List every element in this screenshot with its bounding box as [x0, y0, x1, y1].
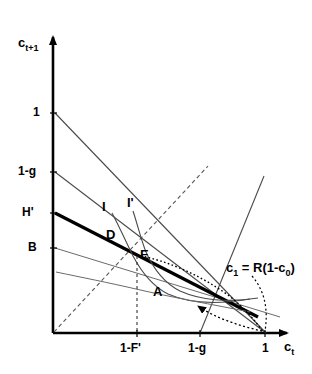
point-label-A: A: [153, 285, 162, 298]
equation-part-mid: = R(1-c: [238, 260, 285, 275]
y-axis-label-sub: t+1: [25, 43, 38, 53]
y-tick-label-1-minus-g: 1-g: [18, 165, 36, 177]
y-tick-label-1: 1: [33, 106, 40, 118]
y-tick-label-B: B: [28, 241, 37, 253]
figure-canvas: ct+1 ct 1 1-g H' B 1-F' 1-g 1 I I' D E A…: [0, 0, 312, 374]
equation-leader-curve: [252, 276, 266, 331]
equation-c1-annotation: c1 = R(1-c0): [226, 261, 295, 278]
curve-label-I-prime: I': [127, 196, 134, 209]
curve-label-I: I: [102, 200, 106, 213]
point-label-D: D: [106, 228, 115, 241]
indifference-curve-I: [112, 213, 250, 302]
y-axis-label: ct+1: [18, 36, 39, 53]
point-label-E: E: [140, 248, 149, 261]
equation-part-close: ): [291, 260, 295, 275]
diagram-svg: [0, 0, 312, 374]
x-tick-label-1-minus-F-prime: 1-F': [120, 342, 141, 354]
x-axis-label-sub: t: [291, 347, 294, 357]
x-tick-label-1: 1: [262, 342, 269, 354]
y-tick-label-H-prime: H': [22, 206, 34, 218]
indifference-curve-I-prime: [133, 211, 258, 300]
x-axis-label: ct: [284, 340, 294, 357]
x-tick-label-1-minus-g: 1-g: [188, 342, 206, 354]
